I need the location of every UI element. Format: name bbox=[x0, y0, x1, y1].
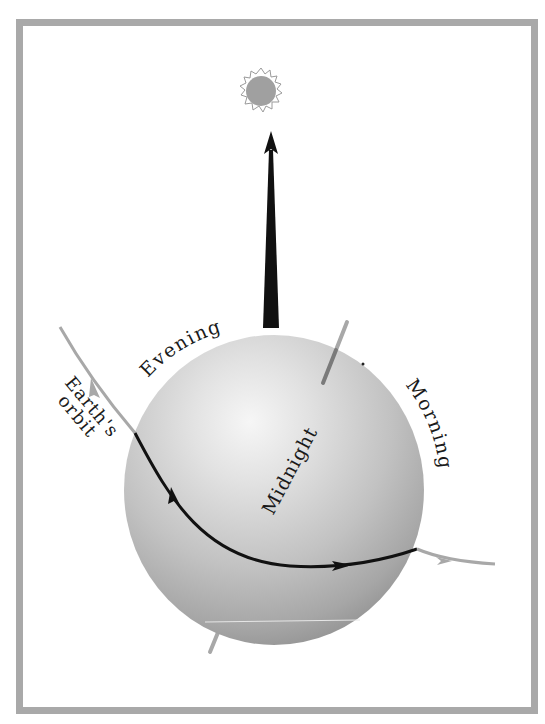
sphere-dot bbox=[362, 363, 365, 366]
sun-icon bbox=[240, 68, 282, 112]
arrow-up-icon bbox=[263, 131, 279, 328]
earth-orbit-diagram: Evening Morning Midnight Earth's orbit bbox=[0, 0, 545, 724]
diagram-canvas: Evening Morning Midnight Earth's orbit bbox=[0, 0, 545, 724]
earth-axis-top bbox=[336, 322, 347, 350]
orbit-path-outgoing bbox=[417, 549, 495, 564]
